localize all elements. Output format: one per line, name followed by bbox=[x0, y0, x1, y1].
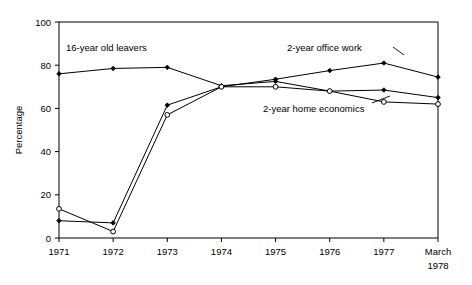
marker-open-circle-2-5 bbox=[327, 89, 332, 94]
office-label: 2-year office work bbox=[287, 42, 362, 53]
y-tick-label-20: 20 bbox=[40, 189, 51, 200]
series-line-0 bbox=[59, 67, 438, 97]
marker-diamond-0-6 bbox=[382, 88, 387, 93]
y-tick-label-0: 0 bbox=[46, 233, 51, 244]
marker-open-circle-2-3 bbox=[219, 84, 224, 89]
marker-diamond-1-1 bbox=[111, 221, 116, 226]
marker-diamond-1-5 bbox=[327, 68, 332, 73]
x-tick-label-3: 1974 bbox=[211, 246, 232, 257]
marker-diamond-1-7 bbox=[436, 75, 441, 80]
series-line-2 bbox=[59, 87, 438, 232]
marker-open-circle-2-0 bbox=[57, 206, 62, 211]
x-tick-label-0: 1971 bbox=[48, 246, 69, 257]
marker-open-circle-2-2 bbox=[165, 112, 170, 117]
plot-axes bbox=[59, 22, 438, 238]
y-tick-label-40: 40 bbox=[40, 146, 51, 157]
marker-open-circle-2-6 bbox=[381, 100, 386, 105]
y-tick-label-100: 100 bbox=[35, 17, 51, 28]
x-tick-label-7: March bbox=[425, 246, 451, 257]
y-axis-title: Percentage bbox=[13, 106, 24, 155]
marker-diamond-0-2 bbox=[165, 65, 170, 70]
leavers-label: 16-year old leavers bbox=[66, 42, 147, 53]
chart-container: 0204060801001971197219731974197519761977… bbox=[0, 0, 472, 285]
x-tick-label-5: 1976 bbox=[319, 246, 340, 257]
x-tick-label-1: 1972 bbox=[103, 246, 124, 257]
line-chart: 0204060801001971197219731974197519761977… bbox=[0, 0, 472, 285]
marker-diamond-0-1 bbox=[111, 66, 116, 71]
marker-diamond-1-2 bbox=[165, 103, 170, 108]
x-tick-label-last-year: 1978 bbox=[427, 260, 448, 271]
marker-open-circle-2-1 bbox=[111, 229, 116, 234]
marker-open-circle-2-4 bbox=[273, 84, 278, 89]
x-tick-label-4: 1975 bbox=[265, 246, 286, 257]
marker-diamond-0-0 bbox=[57, 72, 62, 77]
y-tick-label-60: 60 bbox=[40, 103, 51, 114]
y-tick-label-80: 80 bbox=[40, 60, 51, 71]
marker-diamond-0-7 bbox=[436, 95, 441, 100]
marker-diamond-1-0 bbox=[57, 218, 62, 223]
x-tick-label-6: 1977 bbox=[373, 246, 394, 257]
marker-open-circle-2-7 bbox=[436, 102, 441, 107]
office-label-leader bbox=[393, 47, 404, 55]
home-economics-label: 2-year home economics bbox=[263, 103, 365, 114]
marker-diamond-1-6 bbox=[382, 61, 387, 66]
x-tick-label-2: 1973 bbox=[157, 246, 178, 257]
